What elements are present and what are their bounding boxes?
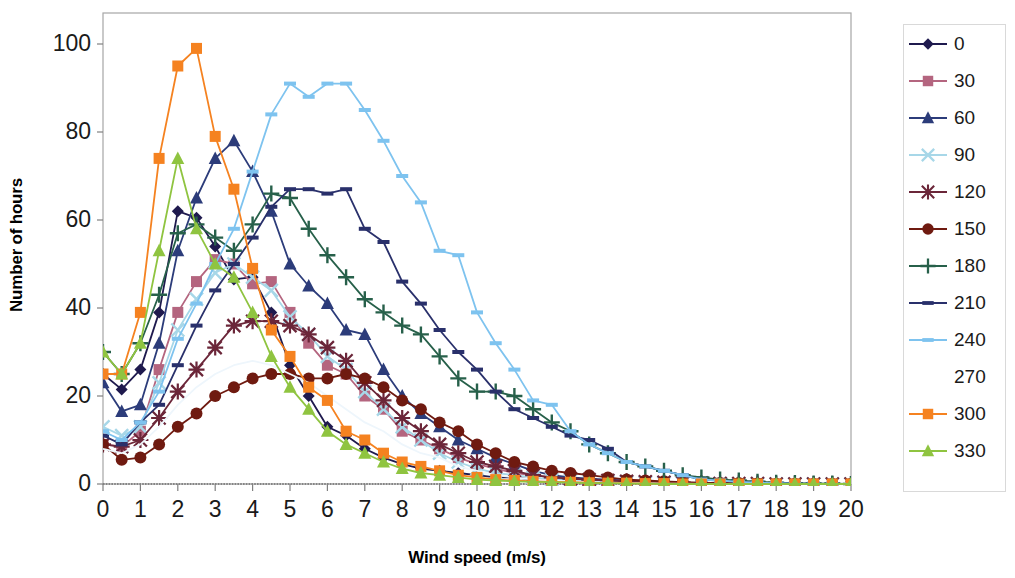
data-point [922, 338, 933, 342]
data-point [565, 429, 577, 433]
data-point [265, 368, 277, 380]
data-point [209, 390, 221, 402]
data-point [378, 139, 390, 143]
y-tick-label: 40 [65, 294, 91, 320]
data-point [151, 410, 167, 426]
legend-marker-square-icon [908, 69, 948, 93]
legend-item-30[interactable]: 30 [904, 62, 1005, 99]
data-point [247, 372, 259, 384]
data-point [172, 337, 184, 341]
x-tick-label: 20 [838, 496, 864, 522]
data-point [452, 253, 464, 257]
legend-item-180[interactable]: 180 [904, 247, 1005, 284]
legend-item-0[interactable]: 0 [904, 25, 1005, 62]
plot-area: 0204060801000123456789101112131415161718… [0, 0, 890, 545]
data-point [359, 372, 371, 384]
data-point [471, 368, 483, 372]
data-point [172, 307, 183, 318]
data-point [98, 369, 109, 380]
data-point [396, 280, 408, 284]
data-point [135, 307, 146, 318]
data-point [639, 464, 651, 468]
data-point [450, 445, 466, 461]
data-point [321, 192, 333, 196]
data-point [415, 403, 427, 415]
data-point [922, 223, 933, 234]
legend-label: 240 [954, 330, 986, 349]
legend-label: 0 [954, 34, 965, 53]
legend-label: 30 [954, 71, 975, 90]
legend-label: 300 [954, 404, 986, 423]
data-point [471, 310, 483, 314]
data-point [247, 263, 258, 274]
legend-marker-triangle-icon [908, 439, 948, 463]
data-point [434, 249, 446, 253]
data-point [247, 236, 259, 240]
data-point [396, 174, 408, 178]
x-axis-title: Wind speed (m/s) [408, 548, 545, 567]
legend-marker-diamond-icon [908, 32, 948, 56]
legend-item-300[interactable]: 300 [904, 395, 1005, 432]
chart-legend: 0306090120150180210240270300330 [903, 24, 1006, 492]
data-point [285, 351, 296, 362]
x-tick-label: 2 [171, 496, 184, 522]
data-point [340, 82, 352, 86]
data-point [359, 108, 371, 112]
legend-item-60[interactable]: 60 [904, 99, 1005, 136]
y-tick-label: 80 [65, 118, 91, 144]
data-point [920, 258, 935, 273]
data-point [546, 465, 558, 477]
legend-label: 180 [954, 256, 986, 275]
y-tick-label: 100 [53, 30, 91, 56]
data-point [527, 416, 539, 420]
legend-marker-dash-icon [908, 328, 948, 352]
data-point [378, 381, 390, 393]
data-point [546, 403, 558, 407]
legend-item-90[interactable]: 90 [904, 136, 1005, 173]
legend-item-150[interactable]: 150 [904, 210, 1005, 247]
data-point [490, 390, 502, 394]
y-tick-label: 20 [65, 382, 91, 408]
legend-marker-dash-icon [908, 291, 948, 315]
data-point [471, 438, 483, 450]
data-point [415, 200, 427, 204]
data-point [677, 473, 689, 477]
data-point [191, 324, 203, 328]
data-point [97, 429, 109, 433]
legend-item-270[interactable]: 270 [904, 358, 1005, 395]
x-tick-label: 7 [358, 496, 371, 522]
legend-marker-x-icon [908, 143, 948, 167]
data-point [116, 454, 128, 466]
data-point [378, 240, 390, 244]
data-point [396, 394, 408, 406]
x-tick-label: 18 [763, 496, 789, 522]
data-point [452, 425, 464, 437]
legend-marker-none-icon [908, 365, 948, 389]
data-point [210, 131, 221, 142]
data-point [153, 438, 165, 450]
x-tick-label: 0 [97, 496, 110, 522]
legend-label: 90 [954, 145, 975, 164]
legend-item-120[interactable]: 120 [904, 173, 1005, 210]
data-point [508, 456, 520, 468]
data-point [153, 390, 165, 394]
legend-item-240[interactable]: 240 [904, 321, 1005, 358]
legend-marker-circle-icon [908, 217, 948, 241]
legend-marker-triangle-icon [908, 106, 948, 130]
legend-marker-star-icon [908, 180, 948, 204]
legend-item-210[interactable]: 210 [904, 284, 1005, 321]
data-point [508, 407, 520, 411]
data-point [922, 301, 933, 305]
data-point [923, 408, 933, 418]
legend-label: 330 [954, 441, 986, 460]
data-point [172, 61, 183, 72]
legend-item-330[interactable]: 330 [904, 432, 1005, 469]
data-point [413, 423, 429, 439]
data-point [228, 227, 240, 231]
data-point [303, 95, 315, 99]
data-point [434, 416, 446, 428]
x-tick-label: 16 [689, 496, 715, 522]
x-tick-label: 9 [433, 496, 446, 522]
data-point [303, 187, 315, 191]
data-point [170, 384, 186, 400]
